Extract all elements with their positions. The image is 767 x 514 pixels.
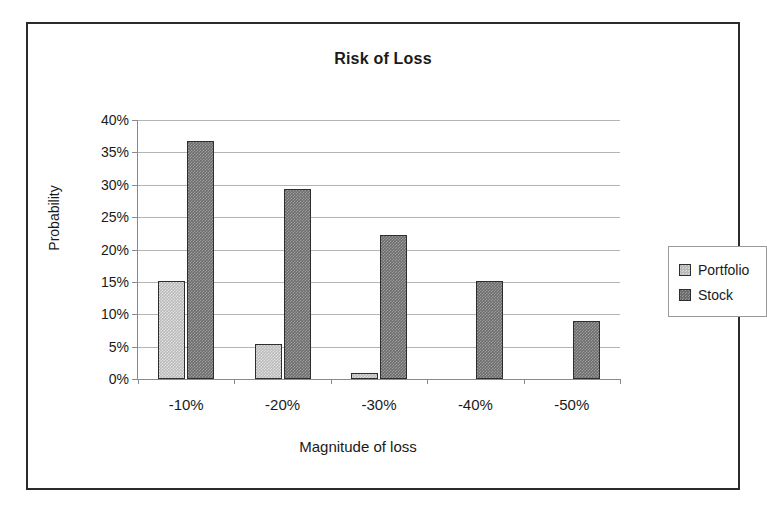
y-axis-tick-label: 20% — [101, 242, 129, 258]
y-axis-tick-label: 10% — [101, 306, 129, 322]
bar-series-layer — [138, 120, 620, 379]
bar-group — [427, 120, 523, 379]
x-axis-tick-mark — [331, 379, 332, 384]
x-axis-tick-label: -40% — [458, 396, 493, 413]
bar-portfolio-neg20pct — [255, 344, 282, 379]
bar-stock-neg30pct — [380, 235, 407, 379]
gridline — [138, 379, 620, 380]
y-axis-title: Probability — [46, 148, 62, 288]
bar-group — [524, 120, 620, 379]
y-axis-tick-label: 0% — [109, 371, 129, 387]
bar-group — [138, 120, 234, 379]
bar-stock-neg20pct — [284, 189, 311, 379]
plot-area: 0%5%10%15%20%25%30%35%40% -10%-20%-30%-4… — [137, 120, 620, 380]
legend-item-stock[interactable]: Stock — [679, 287, 758, 303]
y-axis-tick-label: 30% — [101, 177, 129, 193]
bar-stock-neg50pct — [573, 321, 600, 379]
legend-swatch-icon — [679, 289, 691, 301]
x-axis-tick-mark — [427, 379, 428, 384]
y-axis-tick-label: 15% — [101, 274, 129, 290]
y-axis-tick-label: 40% — [101, 112, 129, 128]
x-axis-title: Magnitude of loss — [128, 438, 588, 455]
y-axis-tick-label: 35% — [101, 144, 129, 160]
bar-portfolio-neg30pct — [351, 373, 378, 379]
x-axis-tick-label: -50% — [554, 396, 589, 413]
bar-group — [331, 120, 427, 379]
chart-legend: PortfolioStock — [668, 246, 767, 317]
x-axis-tick-label: -30% — [361, 396, 396, 413]
y-axis-tick-label: 5% — [109, 339, 129, 355]
y-axis-tick-label: 25% — [101, 209, 129, 225]
x-axis-tick-mark — [524, 379, 525, 384]
bar-portfolio-neg10pct — [158, 281, 185, 379]
legend-item-label: Portfolio — [698, 262, 749, 278]
legend-item-portfolio[interactable]: Portfolio — [679, 262, 758, 278]
legend-item-label: Stock — [698, 287, 733, 303]
bar-group — [234, 120, 330, 379]
x-axis-tick-label: -10% — [169, 396, 204, 413]
bar-stock-neg40pct — [476, 281, 503, 379]
x-axis-tick-mark — [620, 379, 621, 384]
x-axis-tick-mark — [234, 379, 235, 384]
bar-stock-neg10pct — [187, 141, 214, 379]
x-axis-tick-label: -20% — [265, 396, 300, 413]
chart-frame: Risk of Loss Probability 0%5%10%15%20%25… — [26, 22, 740, 490]
x-axis-tick-mark — [138, 379, 139, 384]
chart-title: Risk of Loss — [28, 50, 738, 68]
legend-swatch-icon — [679, 264, 691, 276]
